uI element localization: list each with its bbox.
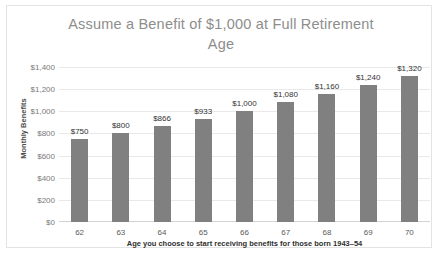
x-axis-tick-label: 66 (240, 228, 249, 237)
bar-value-label: $1,240 (356, 73, 380, 82)
bar-group[interactable]: $800 (100, 67, 141, 222)
bar[interactable] (236, 111, 253, 222)
y-axis-tick-label: $400 (11, 173, 55, 182)
x-axis-tick-label: 67 (281, 228, 290, 237)
chart-title-line-2: Age (41, 34, 401, 54)
bar[interactable] (401, 76, 418, 222)
bar[interactable] (360, 85, 377, 222)
bar[interactable] (195, 119, 212, 222)
bar-value-label: $750 (71, 127, 89, 136)
bar-group[interactable]: $1,320 (389, 67, 430, 222)
bar-group[interactable]: $1,160 (306, 67, 347, 222)
bar-value-label: $800 (112, 121, 130, 130)
bar[interactable] (112, 133, 129, 222)
x-axis-tick-label: 69 (364, 228, 373, 237)
bar-value-label: $866 (153, 114, 171, 123)
bar-value-label: $1,000 (232, 99, 256, 108)
x-axis-tick-label: 64 (158, 228, 167, 237)
chart-title: Assume a Benefit of $1,000 at Full Retir… (41, 14, 401, 54)
y-axis-tick-label: $800 (11, 129, 55, 138)
bar-group[interactable]: $1,240 (348, 67, 389, 222)
bar-group[interactable]: $750 (59, 67, 100, 222)
plot-area: $750$800$866$933$1,000$1,080$1,160$1,240… (59, 67, 430, 222)
bar-group[interactable]: $1,080 (265, 67, 306, 222)
x-axis-tick-label: 65 (199, 228, 208, 237)
bar-group[interactable]: $933 (183, 67, 224, 222)
bar-group[interactable]: $1,000 (224, 67, 265, 222)
x-axis-tick-label: 63 (116, 228, 125, 237)
chart-container: Assume a Benefit of $1,000 at Full Retir… (6, 5, 432, 248)
bar[interactable] (71, 139, 88, 222)
y-axis-tick-label: $1,000 (11, 107, 55, 116)
chart-title-line-1: Assume a Benefit of $1,000 at Full Retir… (41, 14, 401, 34)
y-axis-tick-label: $1,200 (11, 85, 55, 94)
y-axis-tick-label: $200 (11, 195, 55, 204)
y-axis-tick-label: $600 (11, 151, 55, 160)
bar[interactable] (154, 126, 171, 222)
bar-value-label: $1,320 (397, 64, 421, 73)
y-axis-ticks: $0$200$400$600$800$1,000$1,200$1,400 (7, 67, 55, 222)
bar[interactable] (318, 94, 335, 222)
bar-value-label: $933 (194, 107, 212, 116)
x-axis-label: Age you choose to start receiving benefi… (59, 239, 430, 248)
bar-value-label: $1,080 (273, 90, 297, 99)
y-axis-tick-label: $0 (11, 218, 55, 227)
bar-group[interactable]: $866 (141, 67, 182, 222)
bar[interactable] (277, 102, 294, 222)
bar-value-label: $1,160 (315, 82, 339, 91)
y-axis-tick-label: $1,400 (11, 63, 55, 72)
x-axis-tick-label: 70 (405, 228, 414, 237)
x-axis-tick-label: 62 (75, 228, 84, 237)
x-axis-tick-label: 68 (322, 228, 331, 237)
